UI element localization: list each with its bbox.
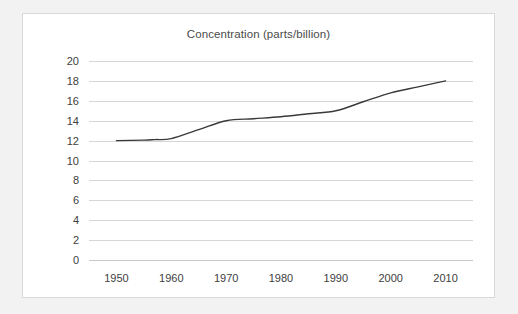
x-axis-tick-label: 1990 xyxy=(324,272,348,284)
y-axis-tick-label: 10 xyxy=(67,155,79,167)
line-chart-svg: 20181614121086420 1950196019701980199020… xyxy=(23,14,496,299)
x-axis-tick-label: 1980 xyxy=(269,272,293,284)
y-axis-tick-label: 18 xyxy=(67,75,79,87)
x-axis-tick-label: 1950 xyxy=(104,272,128,284)
y-axis-tick-label: 16 xyxy=(67,95,79,107)
y-axis-tick-labels: 20181614121086420 xyxy=(67,55,79,266)
x-axis-tick-label: 1970 xyxy=(214,272,238,284)
y-axis-tick-label: 2 xyxy=(73,234,79,246)
x-axis-tick-label: 1960 xyxy=(159,272,183,284)
data-series-group xyxy=(116,81,445,141)
x-axis-tick-label: 2010 xyxy=(433,272,457,284)
y-axis-tick-label: 0 xyxy=(73,254,79,266)
y-axis-tick-label: 4 xyxy=(73,214,79,226)
series-line-concentration xyxy=(116,81,445,141)
y-axis-tick-label: 6 xyxy=(73,194,79,206)
y-axis-tick-label: 20 xyxy=(67,55,79,67)
plot-area: 20181614121086420 1950196019701980199020… xyxy=(23,14,496,299)
gridlines-group xyxy=(89,62,473,261)
chart-card: Concentration (parts/billion) 2018161412… xyxy=(22,13,495,298)
y-axis-tick-label: 14 xyxy=(67,115,79,127)
y-axis-tick-label: 8 xyxy=(73,174,79,186)
y-axis-tick-label: 12 xyxy=(67,135,79,147)
x-axis-tick-labels: 1950196019701980199020002010 xyxy=(104,272,458,284)
x-axis-tick-label: 2000 xyxy=(378,272,402,284)
